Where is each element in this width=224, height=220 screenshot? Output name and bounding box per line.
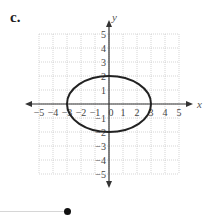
x-axis-arrow-left-icon (25, 101, 32, 107)
x-tick-label: 1 (121, 107, 126, 118)
slider[interactable] (0, 206, 72, 218)
y-tick-label: −5 (95, 169, 106, 180)
y-tick-label: 4 (101, 43, 106, 54)
y-tick-label: −4 (95, 155, 106, 166)
x-axis-arrow-right-icon (186, 101, 193, 107)
y-axis-label: y (111, 11, 117, 23)
x-tick-label: −2 (76, 107, 87, 118)
x-tick-label: 0 (109, 107, 114, 118)
x-tick-label: 2 (135, 107, 140, 118)
x-tick-label: 4 (163, 107, 168, 118)
slider-handle[interactable] (64, 208, 71, 215)
coordinate-plot: xy−5−4−3−2−101234554321−1−2−3−4−5 (0, 0, 224, 220)
y-tick-label: 3 (101, 57, 106, 68)
y-axis-arrow-down-icon (106, 181, 112, 188)
y-tick-label: −3 (95, 141, 106, 152)
slider-track (0, 211, 68, 212)
x-tick-label: 5 (177, 107, 182, 118)
x-tick-label: −5 (34, 107, 45, 118)
y-tick-label: 5 (101, 29, 106, 40)
y-tick-label: 1 (101, 85, 106, 96)
x-tick-label: −4 (48, 107, 59, 118)
x-axis-label: x (196, 98, 202, 110)
y-tick-label: −1 (95, 113, 106, 124)
